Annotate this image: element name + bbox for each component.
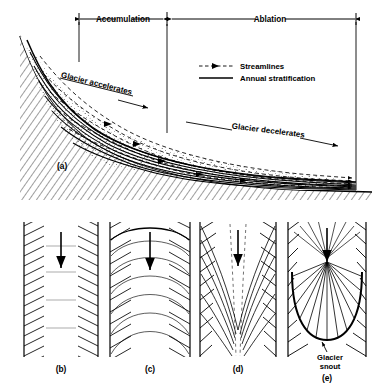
accumulation-label: Accumulation — [96, 15, 150, 24]
panel-c-label: (c) — [145, 364, 155, 374]
legend-stratification-label: Annual stratification — [240, 74, 316, 83]
glacier-flow-diagram: Accumulation Ablation — [0, 0, 383, 384]
panel-a-label: (a) — [57, 161, 67, 171]
panel-b-label: (b) — [56, 364, 67, 374]
glacier-snout-label-line2: snout — [320, 362, 341, 371]
diagram-canvas: Accumulation Ablation — [0, 0, 383, 384]
legend-streamlines-label: Streamlines — [240, 62, 285, 71]
ablation-label: Ablation — [254, 15, 287, 24]
panel-e-label: (e) — [322, 373, 332, 383]
panel-d-label: (d) — [233, 364, 244, 374]
glacier-snout-label-line1: Glacier — [317, 353, 343, 362]
